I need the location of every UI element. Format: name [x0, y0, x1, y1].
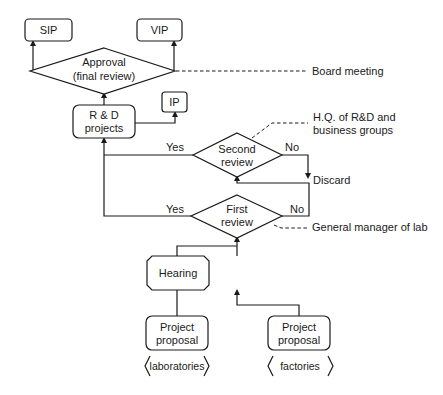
node-vip: VIP — [137, 19, 182, 41]
source-factories-label: factories — [280, 360, 320, 372]
proposal-lab-label-line1: Project — [160, 321, 194, 333]
edge-label-second-yes: Yes — [166, 141, 184, 153]
sip-label: SIP — [40, 24, 58, 36]
node-second-review-diamond: Second review — [193, 133, 282, 177]
hearing-label: Hearing — [159, 267, 198, 279]
edge-label-first-no: No — [290, 203, 304, 215]
node-first-review-diamond: First review — [191, 195, 282, 238]
edge-label-second-no: No — [285, 141, 299, 153]
node-ip: IP — [162, 92, 187, 112]
discard-label: Discard — [313, 174, 350, 186]
second-review-label-line1: Second — [218, 143, 255, 155]
rd-label-line2: projects — [85, 122, 124, 134]
leader-hq — [252, 123, 308, 138]
left-angle-bracket-icon — [268, 356, 273, 376]
vip-label: VIP — [151, 24, 169, 36]
proposal-factory-label-line1: Project — [282, 321, 316, 333]
node-rd-projects: R & D projects — [73, 105, 135, 138]
first-review-label-line1: First — [226, 203, 247, 215]
proposal-lab-label-line2: proposal — [156, 334, 198, 346]
arrow-factory-proposal-to-hearing — [237, 292, 299, 316]
right-angle-bracket-icon — [204, 356, 209, 376]
arrow-rd-to-ip — [135, 114, 175, 123]
node-sip: SIP — [25, 19, 72, 41]
rd-label-line1: R & D — [89, 109, 118, 121]
node-proposal-laboratories: Project proposal — [146, 316, 208, 350]
source-laboratories: laboratories — [145, 356, 209, 376]
annotation-hq-line2: business groups — [313, 124, 394, 136]
right-angle-bracket-icon — [328, 356, 333, 376]
arrow-second-review-no-to-discard — [282, 155, 308, 176]
ip-label: IP — [169, 96, 179, 108]
source-factories: factories — [268, 356, 333, 376]
flowchart-canvas: SIP VIP Approval (final review) R & D pr… — [0, 0, 443, 395]
annotation-hq-line1: H.Q. of R&D and — [313, 111, 396, 123]
node-hearing-octagon: Hearing — [147, 256, 209, 290]
annotation-board-meeting: Board meeting — [312, 65, 384, 77]
source-laboratories-label: laboratories — [150, 360, 205, 372]
node-proposal-factories: Project proposal — [268, 316, 330, 350]
second-review-label-line2: review — [221, 156, 253, 168]
approval-label-line1: Approval — [82, 56, 125, 68]
edge-label-first-yes: Yes — [166, 203, 184, 215]
proposal-factory-label-line2: proposal — [278, 334, 320, 346]
first-review-label-line2: review — [221, 216, 253, 228]
approval-label-line2: (final review) — [73, 70, 135, 82]
leader-general-manager — [274, 225, 308, 228]
node-approval-diamond: Approval (final review) — [30, 48, 175, 94]
annotation-general-manager: General manager of lab — [312, 221, 428, 233]
